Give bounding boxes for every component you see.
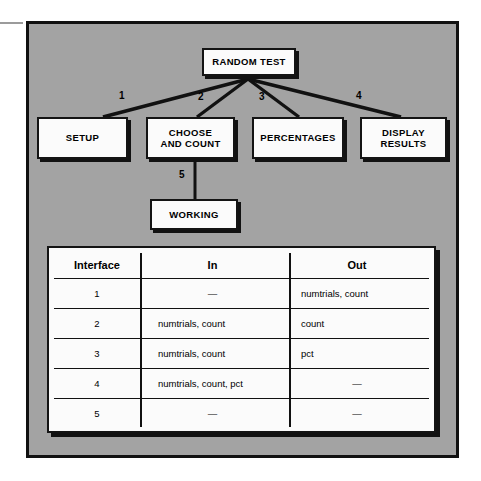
edge-label-1: 1	[119, 91, 125, 101]
cell-out: —	[285, 369, 429, 399]
cell-out: count	[285, 309, 429, 339]
cell-interface: 1	[54, 279, 140, 309]
cell-in: numtrials, count	[140, 309, 285, 339]
node-choose-and-count-label-line1: CHOOSE	[160, 127, 220, 139]
cell-in: —	[140, 399, 285, 429]
edge-label-5: 5	[179, 170, 185, 180]
column-header-in: In	[140, 251, 285, 279]
cell-in: numtrials, count	[140, 339, 285, 369]
column-header-out: Out	[285, 251, 429, 279]
edge-label-4: 4	[356, 91, 362, 101]
table-column-divider-1	[140, 253, 142, 427]
cell-out: pct	[285, 339, 429, 369]
edge-label-2: 2	[198, 92, 204, 102]
table-row: 3 numtrials, count pct	[54, 339, 429, 369]
cell-out: numtrials, count	[285, 279, 429, 309]
figure-panel: RANDOM TEST 1 2 3 4 5 SETUP CHOOSE AND C…	[26, 21, 459, 458]
edge-label-3: 3	[259, 92, 265, 102]
node-random-test-label: RANDOM TEST	[212, 56, 286, 68]
cell-interface: 4	[54, 369, 140, 399]
column-header-interface: Interface	[54, 251, 140, 279]
interface-table-panel: Interface In Out 1 — numtrials, count 2 …	[47, 246, 436, 433]
node-setup[interactable]: SETUP	[37, 117, 128, 159]
node-display-results-label-line2: RESULTS	[380, 138, 426, 150]
node-choose-and-count-label-line2: AND COUNT	[160, 138, 220, 150]
cell-in: —	[140, 279, 285, 309]
node-display-results-label-line1: DISPLAY	[380, 127, 426, 139]
cell-interface: 3	[54, 339, 140, 369]
node-choose-and-count[interactable]: CHOOSE AND COUNT	[146, 117, 235, 159]
node-percentages[interactable]: PERCENTAGES	[252, 117, 344, 159]
cell-interface: 2	[54, 309, 140, 339]
interface-table: Interface In Out 1 — numtrials, count 2 …	[54, 251, 429, 428]
table-row: 4 numtrials, count, pct —	[54, 369, 429, 399]
cell-in: numtrials, count, pct	[140, 369, 285, 399]
table-header-row: Interface In Out	[54, 251, 429, 279]
table-row: 1 — numtrials, count	[54, 279, 429, 309]
node-working[interactable]: WORKING	[150, 199, 238, 230]
table-column-divider-2	[289, 253, 291, 427]
node-random-test[interactable]: RANDOM TEST	[202, 48, 296, 76]
table-row: 5 — —	[54, 399, 429, 429]
node-working-label: WORKING	[169, 209, 218, 221]
table-row: 2 numtrials, count count	[54, 309, 429, 339]
cell-interface: 5	[54, 399, 140, 429]
node-percentages-label: PERCENTAGES	[260, 132, 335, 144]
node-display-results[interactable]: DISPLAY RESULTS	[360, 117, 447, 159]
node-setup-label: SETUP	[66, 132, 99, 144]
top-left-rule	[0, 22, 23, 24]
cell-out: —	[285, 399, 429, 429]
